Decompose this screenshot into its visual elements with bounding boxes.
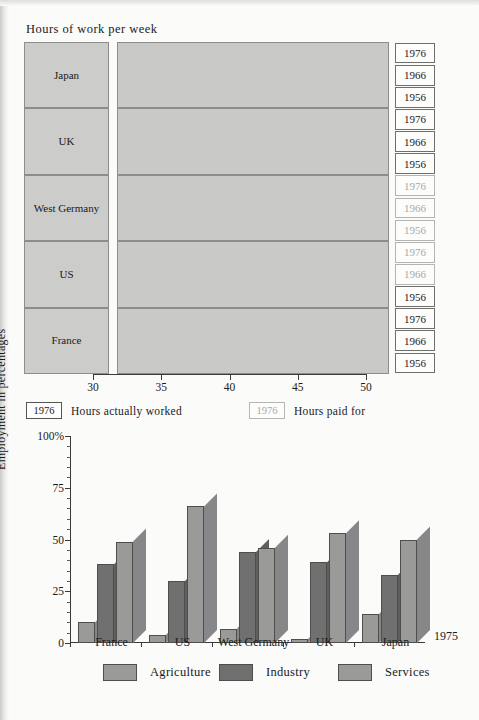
x-axis-tick-label: 40 xyxy=(224,381,236,393)
bar-front-face xyxy=(329,533,346,643)
year-label: 1956 xyxy=(395,286,435,307)
x-axis-tick xyxy=(298,374,299,380)
top-chart-legend: 1976Hours actually worked1976Hours paid … xyxy=(0,402,479,426)
country-group: UK197619661956 xyxy=(24,108,434,174)
x-axis-tick-label: 45 xyxy=(292,381,304,393)
x-axis-tick-label: 35 xyxy=(156,381,168,393)
x-axis-tick xyxy=(366,374,367,380)
y-axis-minor-tick xyxy=(67,498,71,499)
legend-item: Agriculture xyxy=(103,664,211,681)
country-label: US xyxy=(24,241,109,307)
y-axis-minor-tick xyxy=(67,550,71,551)
x-axis-tick xyxy=(212,643,213,647)
legend-label: Hours paid for xyxy=(294,405,365,417)
bar-side-face xyxy=(204,493,217,643)
bar-side-face xyxy=(275,535,288,643)
year-labels: 197619661956 xyxy=(395,108,435,174)
year-label: 1966 xyxy=(395,264,435,285)
country-axis-label: West Germany xyxy=(218,635,289,650)
x-axis-tick xyxy=(70,643,71,647)
y-axis-minor-tick xyxy=(67,581,71,582)
legend-swatch xyxy=(103,664,137,681)
y-axis-minor-tick xyxy=(67,602,71,603)
y-axis-tick-label: 25 xyxy=(53,585,71,597)
bar-industry xyxy=(97,564,114,643)
bar-side-face xyxy=(346,520,359,643)
legend-swatch: 1976 xyxy=(26,402,62,419)
country-group: West Germany197619661956 xyxy=(24,175,434,241)
year-label: 1976 xyxy=(395,109,435,130)
legend-label: Hours actually worked xyxy=(71,405,182,417)
year-label: 1976 xyxy=(395,175,435,196)
bar-front-face xyxy=(291,639,308,643)
y-axis-minor-tick xyxy=(67,560,71,561)
y-axis-minor-tick xyxy=(67,508,71,509)
y-axis-minor-tick xyxy=(67,633,71,634)
country-bars xyxy=(117,308,389,374)
bar-front-face xyxy=(310,562,327,643)
legend-swatch: 1976 xyxy=(249,402,285,419)
year-label: 1956 xyxy=(395,220,435,241)
country-label: UK xyxy=(24,108,109,174)
legend-item: Services xyxy=(338,664,430,681)
y-axis-tick-label: 100% xyxy=(37,430,70,442)
x-axis-tick xyxy=(141,643,142,647)
x-axis-tick-label: 30 xyxy=(87,381,99,393)
y-axis-label: Employment in percentages xyxy=(0,329,9,470)
x-axis-tick xyxy=(93,374,94,380)
bar-side-face xyxy=(417,527,430,644)
country-label: West Germany xyxy=(24,175,109,241)
x-axis-tick xyxy=(230,374,231,380)
bar-side-face xyxy=(133,529,146,643)
bar-front-face xyxy=(97,564,114,643)
y-axis-tick-label: 0 xyxy=(58,637,70,649)
legend-label: Industry xyxy=(266,665,310,680)
y-axis-minor-tick xyxy=(67,519,71,520)
country-group: France197619661956 xyxy=(24,308,434,374)
country-axis-label: France xyxy=(95,635,128,650)
y-axis-minor-tick xyxy=(67,457,71,458)
bar-industry xyxy=(381,575,398,643)
bottom-chart-legend: AgricultureIndustryServices xyxy=(0,664,479,694)
country-label: Japan xyxy=(24,42,109,108)
bar-front-face xyxy=(116,542,133,643)
hours-of-work-chart: Hours of work per week Japan197619661956… xyxy=(0,0,479,400)
bar-agriculture xyxy=(149,635,166,643)
year-label: 1966 xyxy=(395,131,435,152)
legend-label: Services xyxy=(385,665,430,680)
year-label: 1976 xyxy=(395,308,435,329)
year-label: 1976 xyxy=(395,43,435,64)
bar-services xyxy=(116,542,133,643)
year-labels: 197619661956 xyxy=(395,241,435,307)
country-axis-label: UK xyxy=(316,635,333,650)
y-axis-minor-tick xyxy=(67,622,71,623)
x-axis-tick-label: 50 xyxy=(360,381,372,393)
top-chart-plot-area: Japan197619661956UK197619661956West Germ… xyxy=(24,42,434,374)
legend-item: 1976Hours paid for xyxy=(249,402,365,419)
year-label: 1966 xyxy=(395,198,435,219)
y-axis-minor-tick xyxy=(67,612,71,613)
country-group: US197619661956 xyxy=(24,241,434,307)
legend-item: Industry xyxy=(219,664,310,681)
legend-swatch xyxy=(338,664,372,681)
country-bars xyxy=(117,42,389,108)
legend-label: Agriculture xyxy=(150,665,211,680)
y-axis-tick-label: 75 xyxy=(53,482,71,494)
y-axis-minor-tick xyxy=(67,571,71,572)
year-label: 1956 xyxy=(395,153,435,174)
year-label: 1976 xyxy=(395,242,435,263)
year-labels: 197619661956 xyxy=(395,42,435,108)
year-label: 1956 xyxy=(395,353,435,374)
bar-agriculture xyxy=(362,614,379,643)
year-label: 1966 xyxy=(395,330,435,351)
legend-item: 1976Hours actually worked xyxy=(26,402,182,419)
bar-agriculture xyxy=(78,622,95,643)
bar-industry xyxy=(239,552,256,643)
legend-swatch xyxy=(219,664,253,681)
bottom-chart-year-note: 1975 xyxy=(434,629,458,644)
bar-front-face xyxy=(381,575,398,643)
y-axis-minor-tick xyxy=(67,529,71,530)
country-bars xyxy=(117,241,389,307)
year-labels: 197619661956 xyxy=(395,175,435,241)
year-label: 1956 xyxy=(395,87,435,108)
